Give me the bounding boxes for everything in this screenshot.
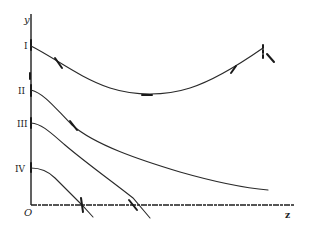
diagram-canvas: y O z I II III IV bbox=[0, 0, 311, 233]
curve-IV bbox=[31, 168, 93, 217]
curve-label-III: III bbox=[17, 119, 28, 129]
curve-I bbox=[31, 46, 263, 94]
curve-label-II: II bbox=[18, 86, 26, 96]
z-axis-label: z bbox=[285, 210, 290, 220]
curve-IV-axis-crossing-mark bbox=[81, 198, 83, 212]
curve-label-I: I bbox=[24, 41, 28, 51]
curve-II-tick-mark bbox=[70, 121, 77, 130]
origin-label: O bbox=[24, 207, 32, 218]
curve-I-end-stroke bbox=[267, 54, 274, 62]
y-axis-label: y bbox=[23, 14, 30, 25]
curve-II bbox=[31, 90, 268, 190]
curve-label-IV: IV bbox=[15, 164, 26, 174]
